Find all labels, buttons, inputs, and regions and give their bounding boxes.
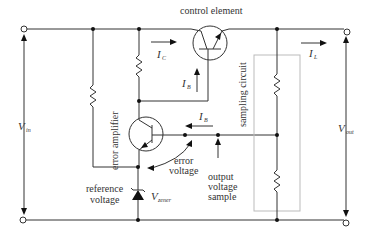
ic-subscript: C (162, 55, 167, 61)
output-sample-arrow-icon (215, 138, 221, 158)
error-amplifier-label: error amplifier (109, 111, 120, 170)
resistor-sample-bottom-icon (274, 170, 280, 192)
vin-minus-terminal (20, 217, 26, 223)
vzener-subscript: zener (157, 197, 172, 203)
vout-symbol: V (338, 122, 346, 134)
output-sample-label-3: sample (208, 191, 237, 202)
error-voltage-label-2: voltage (169, 165, 199, 176)
il-arrow-icon (301, 40, 327, 46)
ib-error-arrow-icon (185, 123, 213, 129)
reference-voltage-label-2: voltage (90, 194, 120, 205)
vout-subscript: out (346, 129, 354, 135)
vin-symbol: V (18, 120, 26, 132)
regulator-circuit-diagram: control element error amplifier sampling… (0, 0, 370, 241)
sampling-circuit-label: sampling circuit (237, 62, 248, 127)
ib-error-subscript: B (204, 117, 208, 123)
ib-control-subscript: B (187, 84, 191, 90)
il-subscript: L (313, 54, 318, 60)
vout-plus-terminal (344, 29, 350, 35)
resistor-sample-top-icon (274, 74, 280, 96)
vin-subscript: in (26, 127, 31, 133)
ib-control-arrow-icon (194, 68, 200, 92)
vin-plus-terminal (21, 26, 27, 32)
zener-diode-icon (131, 188, 145, 200)
ic-arrow-icon (151, 39, 177, 45)
resistor-left-icon (90, 85, 96, 107)
reference-voltage-label-1: reference (86, 183, 124, 194)
resistor-collector-icon (136, 55, 142, 77)
control-element-label: control element (180, 5, 243, 16)
vout-minus-terminal (343, 220, 349, 226)
